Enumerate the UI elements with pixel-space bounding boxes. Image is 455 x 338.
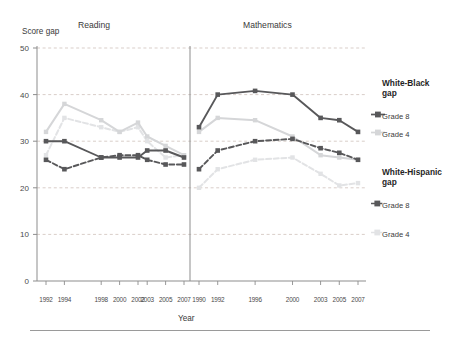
y-tick-label-20: 20 [13, 184, 29, 193]
panel-title-mathematics: Mathematics [243, 21, 292, 30]
legend-wh-line1: White-Hispanic [382, 167, 442, 177]
x-tick-label-mathematics-2000: 2000 [282, 296, 304, 303]
series-mathematics-solid-dark [197, 89, 361, 135]
legend-wh-line2: gap [382, 177, 397, 187]
x-tick-label-reading-1994: 1994 [53, 296, 75, 303]
y-tick-label-30: 30 [13, 137, 29, 146]
legend-label-wb-grade4: Grade 4 [382, 130, 409, 139]
y-tick-label-0: 0 [13, 277, 29, 286]
legend-group-white-black-title: White-Black gap [382, 78, 452, 99]
y-axis-title: Score gap [22, 28, 59, 36]
x-tick-label-mathematics-1996: 1996 [244, 296, 266, 303]
legend-wb-line2: gap [382, 88, 397, 98]
y-tick-label-50: 50 [13, 44, 29, 53]
y-tick-label-40: 40 [13, 91, 29, 100]
x-tick-label-mathematics-1992: 1992 [207, 296, 229, 303]
series-mathematics-dashed-light [197, 155, 360, 190]
legend-label-wh-grade8: Grade 8 [382, 201, 409, 210]
series-reading-dashed-light [44, 116, 186, 160]
gridlines-group [37, 48, 366, 234]
legend-label-wb-grade8: Grade 8 [382, 112, 409, 121]
chart-figure: Score gap Reading Mathematics Year 01020… [0, 0, 455, 338]
y-tick-label-10: 10 [13, 230, 29, 239]
x-tickmarks-group [46, 281, 358, 285]
legend-wb-line1: White-Black [382, 78, 429, 88]
x-axis-title: Year [178, 315, 195, 323]
series-mathematics-dashed-dark [197, 137, 361, 172]
bottom-divider-rule [30, 330, 430, 331]
legend-label-wh-grade4: Grade 4 [382, 230, 409, 239]
x-tick-label-mathematics-2007: 2007 [347, 296, 369, 303]
legend-group-white-hispanic-title: White-Hispanic gap [382, 167, 452, 188]
data-series-group [44, 89, 361, 190]
panel-title-reading: Reading [78, 21, 110, 30]
